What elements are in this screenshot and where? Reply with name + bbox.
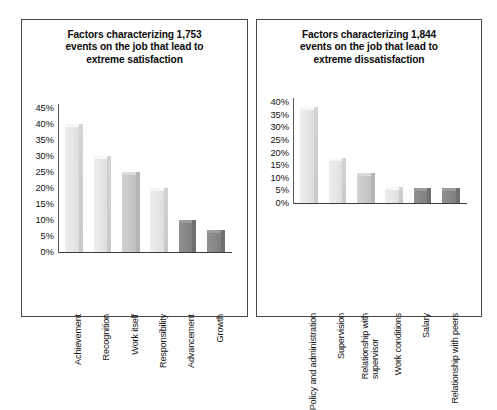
category-slot: Achievement: [60, 256, 88, 314]
bar-top-edge: [329, 158, 343, 161]
y-tick-label: 25%: [270, 135, 289, 145]
bar-slot: [145, 108, 173, 252]
category-slot: Relationship with peers: [437, 207, 465, 313]
panel-satisfaction: Factors characterizing 1,753 events on t…: [21, 19, 248, 317]
bar-side: [314, 107, 318, 203]
bar-top-edge: [150, 188, 164, 191]
category-label: Work itself: [131, 314, 141, 355]
category-label: Recognition: [102, 314, 112, 360]
y-tick-label: 20%: [270, 148, 289, 158]
category-label: Advancement: [187, 314, 197, 368]
bar-slot: [352, 102, 380, 203]
category-label: Relationship withsupervisor: [361, 313, 380, 379]
bar-face: [207, 233, 221, 252]
title-line-2: events on the job that lead to: [66, 41, 204, 52]
bar: [65, 124, 83, 252]
plot-area-dissatisfaction: 0%5%10%15%20%25%30%35%40% Policy and adm…: [257, 76, 481, 314]
title-line-3: extreme dissatisfaction: [314, 54, 425, 65]
y-tick-label: 20%: [35, 183, 54, 193]
y-tick-label: 0%: [276, 198, 289, 208]
bar-face: [179, 223, 193, 252]
title-line-1: Factors characterizing 1,844: [302, 29, 436, 40]
bar-face: [414, 191, 428, 203]
bar-top-edge: [442, 188, 456, 191]
y-axis-satisfaction: 0%5%10%15%20%25%30%35%40%45%: [24, 76, 54, 266]
bar-top-edge: [94, 156, 108, 159]
category-slot: Recognition: [88, 256, 116, 314]
y-axis-line-satisfaction: [58, 104, 59, 253]
bar-face: [65, 127, 79, 252]
bar: [357, 173, 375, 203]
y-tick-label: 30%: [35, 151, 54, 161]
bar-face: [150, 191, 164, 252]
bar: [94, 156, 112, 252]
bar-top-edge: [357, 173, 371, 176]
category-label: Growth: [216, 314, 226, 342]
y-tick-label: 40%: [270, 97, 289, 107]
bar-face: [329, 161, 343, 203]
category-slot: Supervision: [323, 207, 351, 313]
bar-side: [107, 156, 111, 252]
bar-face: [300, 110, 314, 203]
bar-slot: [60, 108, 88, 252]
y-tick-label: 45%: [35, 103, 54, 113]
bar-side: [456, 188, 460, 203]
panel-dissatisfaction: Factors characterizing 1,844 events on t…: [256, 19, 482, 317]
bar: [385, 187, 403, 203]
bar-face: [385, 190, 399, 203]
y-tick-label: 40%: [35, 119, 54, 129]
title-line-1: Factors characterizing 1,753: [67, 29, 201, 40]
bar: [150, 188, 168, 252]
bar: [442, 188, 460, 203]
bar-top-edge: [65, 124, 79, 127]
bar-top-edge: [414, 188, 428, 191]
category-slot: Work itself: [117, 256, 145, 314]
y-tick-label: 15%: [270, 160, 289, 170]
y-tick-label: 10%: [270, 173, 289, 183]
bar-side: [192, 220, 196, 252]
bar-side: [342, 158, 346, 203]
y-tick-label: 15%: [35, 199, 54, 209]
bar-side: [371, 173, 375, 203]
bar-slot: [408, 102, 436, 203]
bar-slot: [380, 102, 408, 203]
category-slot: Responsibility: [145, 256, 173, 314]
panel-title-satisfaction: Factors characterizing 1,753 events on t…: [22, 20, 247, 66]
bar-slot: [295, 102, 323, 203]
bar: [179, 220, 197, 252]
bar-top-edge: [385, 187, 399, 190]
y-tick-label: 35%: [270, 110, 289, 120]
bar: [122, 172, 140, 252]
bar-group-dissatisfaction: [295, 102, 465, 203]
category-label: Policy and administration: [309, 313, 319, 410]
y-tick-label: 30%: [270, 122, 289, 132]
bar-side: [164, 188, 168, 252]
bar: [329, 158, 347, 203]
y-tick-label: 0%: [41, 247, 54, 257]
bar-group-satisfaction: [60, 108, 230, 252]
category-labels-dissatisfaction: Policy and administrationSupervisionRela…: [295, 207, 465, 313]
bar-side: [79, 124, 83, 252]
y-tick-label: 35%: [35, 135, 54, 145]
bar-side: [221, 230, 225, 252]
category-label: Achievement: [74, 314, 84, 365]
category-label-line: supervisor: [370, 313, 380, 379]
category-label: Supervision: [337, 313, 347, 359]
bar-side: [399, 187, 403, 203]
category-label: Salary: [422, 313, 432, 338]
category-label-line: Relationship with: [361, 313, 371, 379]
bar-face: [94, 159, 108, 252]
bar-slot: [88, 108, 116, 252]
category-slot: Work conditions: [380, 207, 408, 313]
bar-slot: [202, 108, 230, 252]
bar-slot: [173, 108, 201, 252]
bar-face: [357, 176, 371, 203]
bar: [207, 230, 225, 252]
bar-top-edge: [300, 107, 314, 110]
bar: [300, 107, 318, 203]
x-axis-line-satisfaction: [58, 252, 232, 253]
bar-top-edge: [122, 172, 136, 175]
y-tick-label: 25%: [35, 167, 54, 177]
y-axis-line-dissatisfaction: [293, 98, 294, 204]
